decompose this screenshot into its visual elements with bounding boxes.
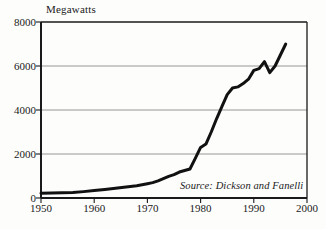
plot-area xyxy=(0,0,326,229)
gridlines xyxy=(41,66,307,154)
x-tick-label: 1970 xyxy=(127,203,167,214)
x-tick-label: 1950 xyxy=(21,203,61,214)
chart-container: Megawatts 02000400060008000 195019601970… xyxy=(0,0,326,229)
source-annotation: Source: Dickson and Fanelli xyxy=(180,180,303,191)
x-tick-label: 1980 xyxy=(181,203,221,214)
x-tick-label: 1990 xyxy=(234,203,274,214)
x-tick-label: 1960 xyxy=(74,203,114,214)
x-tick-label: 2000 xyxy=(287,203,326,214)
